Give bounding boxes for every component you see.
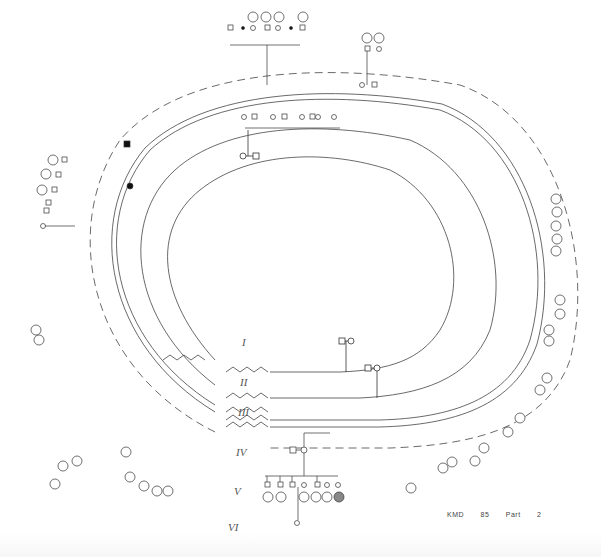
generation-label-I: I: [242, 336, 246, 348]
generation-label-V: V: [234, 485, 241, 497]
caption-kindred: KMD: [447, 511, 464, 518]
founder-couple: [339, 338, 354, 372]
figure-caption: KMD 85 Part 2: [447, 511, 555, 518]
top-couple: [240, 130, 259, 159]
gen1-arc: [168, 157, 454, 372]
perimeter-individuals: [31, 12, 565, 496]
generation-label-III: III: [238, 406, 249, 418]
caption-number: 85: [481, 511, 490, 518]
bottom-sibship: [263, 433, 344, 526]
generation-label-IV: IV: [236, 446, 246, 458]
gen3-arc-b: [112, 94, 545, 427]
caption-part-label: Part: [506, 511, 521, 518]
zigzag-3: [226, 393, 268, 398]
scan-edge: [0, 532, 601, 557]
caption-part-number: 2: [537, 511, 541, 518]
generation-label-II: II: [240, 376, 247, 388]
zigzag-6: [226, 422, 268, 427]
zigzag-2: [226, 367, 268, 372]
gen2-couple: [365, 365, 380, 398]
pedigree-diagram: [0, 0, 601, 557]
